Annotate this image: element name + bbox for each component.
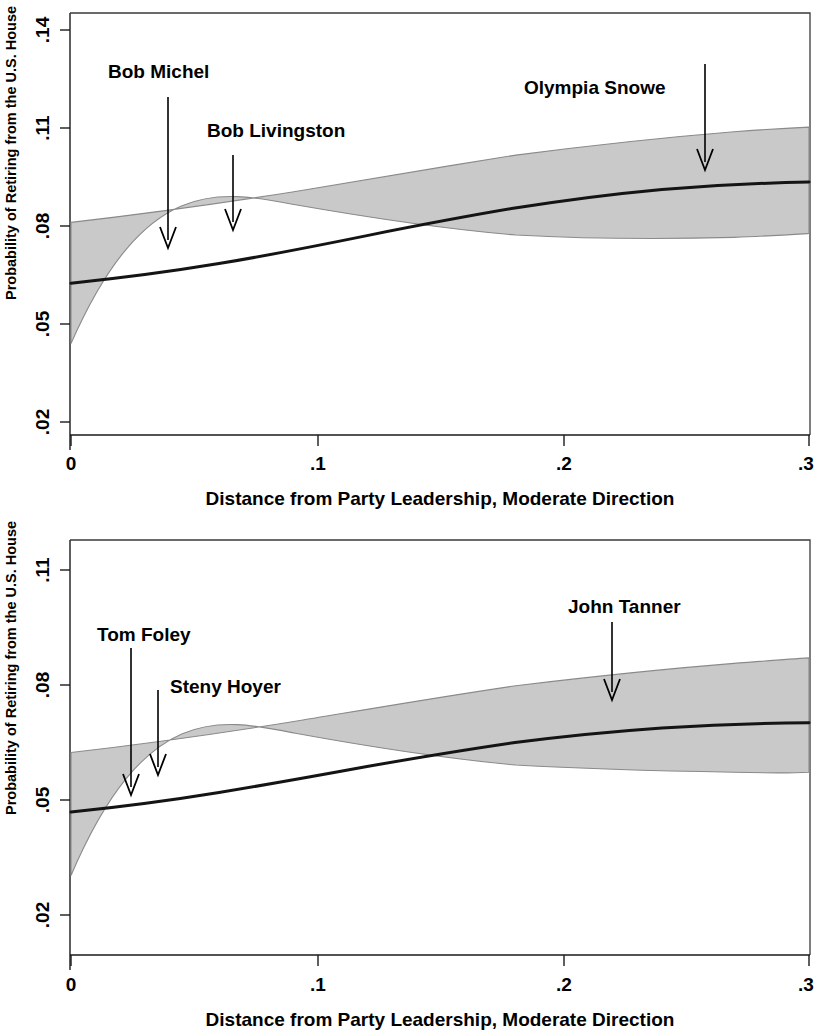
y-ticks-bottom (60, 570, 70, 915)
confidence-band-top (71, 127, 809, 344)
y-tick-label-top-4: .14 (32, 16, 53, 43)
y-ticks-top (60, 30, 70, 422)
chart-panel-bottom: Probability of Retiring from the U.S. Ho… (0, 515, 816, 1035)
annotation-bob-livingston: Bob Livingston (207, 120, 345, 230)
chart-svg-bottom: Probability of Retiring from the U.S. Ho… (0, 515, 816, 1035)
y-tick-label-top-2: .08 (32, 213, 53, 239)
x-tick-label-top-2: .2 (556, 453, 572, 474)
y-tick-label-top-0: .02 (32, 409, 53, 435)
x-axis-title-top: Distance from Party Leadership, Moderate… (206, 488, 675, 509)
y-tick-label-top-1: .05 (32, 310, 53, 337)
annotation-label-john-tanner: John Tanner (568, 596, 681, 617)
y-axis-title-bottom: Probability of Retiring from the U.S. Ho… (3, 521, 19, 815)
y-tick-label-bottom-2: .08 (32, 672, 53, 698)
x-tick-label-top-0: 0 (66, 453, 77, 474)
y-tick-label-top-3: .11 (32, 115, 53, 141)
x-tick-label-top-3: .3 (798, 453, 814, 474)
annotation-label-tom-foley: Tom Foley (97, 624, 191, 645)
y-tick-label-bottom-3: .11 (32, 557, 53, 583)
annotation-label-bob-livingston: Bob Livingston (207, 120, 345, 141)
annotation-label-steny-hoyer: Steny Hoyer (170, 676, 281, 697)
y-tick-label-bottom-0: .02 (32, 902, 53, 928)
y-tick-label-bottom-1: .05 (32, 786, 53, 813)
x-tick-label-bottom-1: .1 (310, 974, 326, 995)
x-tick-label-bottom-3: .3 (798, 974, 814, 995)
x-ticks-top (71, 435, 809, 446)
x-tick-label-top-1: .1 (310, 453, 326, 474)
x-tick-label-bottom-0: 0 (66, 974, 77, 995)
y-axis-title-top: Probability of Retiring from the U.S. Ho… (3, 6, 19, 300)
x-tick-label-bottom-2: .2 (556, 974, 572, 995)
chart-panel-top: Probability of Retiring from the U.S. Ho… (0, 0, 816, 515)
annotation-label-bob-michel: Bob Michel (108, 61, 209, 82)
chart-svg-top: Probability of Retiring from the U.S. Ho… (0, 0, 816, 515)
annotation-label-olympia-snowe: Olympia Snowe (524, 77, 665, 98)
x-ticks-bottom (71, 955, 809, 966)
x-axis-title-bottom: Distance from Party Leadership, Moderate… (206, 1009, 675, 1030)
